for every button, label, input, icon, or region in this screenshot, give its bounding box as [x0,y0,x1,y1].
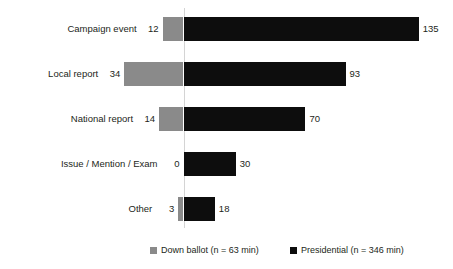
value-label-right: 18 [219,197,230,221]
value-label-right: 93 [350,62,361,86]
value-label-right: 70 [309,107,320,131]
bar-down-ballot [159,107,183,131]
chart-row: Local report 34 93 [0,62,453,86]
legend-swatch-icon [150,247,157,254]
plot-area: Campaign event 12 135 Local report 34 93… [0,0,453,234]
value-label-right: 135 [423,17,439,41]
bar-presidential [184,107,306,131]
value-label-left: 12 [0,17,159,41]
legend-label: Presidential (n = 346 min) [301,245,404,255]
value-label-left: 3 [0,197,174,221]
bar-down-ballot [163,17,184,41]
value-label-right: 30 [240,152,251,176]
bar-down-ballot [124,62,183,86]
bar-presidential [184,17,419,41]
chart-row: Other 3 18 [0,197,453,221]
legend-item-presidential: Presidential (n = 346 min) [290,242,404,258]
legend-item-down-ballot: Down ballot (n = 63 min) [150,242,259,258]
bar-presidential [184,152,236,176]
chart-row: National report 14 70 [0,107,453,131]
value-label-left: 14 [0,107,155,131]
legend-label: Down ballot (n = 63 min) [161,245,259,255]
bar-chart: Campaign event 12 135 Local report 34 93… [0,0,453,269]
bar-presidential [184,197,215,221]
legend-swatch-icon [290,247,297,254]
chart-row: Campaign event 12 135 [0,17,453,41]
value-label-left: 34 [0,62,120,86]
chart-row: Issue / Mention / Exam 0 30 [0,152,453,176]
chart-legend: Down ballot (n = 63 min) Presidential (n… [0,242,453,258]
value-label-left: 0 [0,152,180,176]
bar-presidential [184,62,346,86]
